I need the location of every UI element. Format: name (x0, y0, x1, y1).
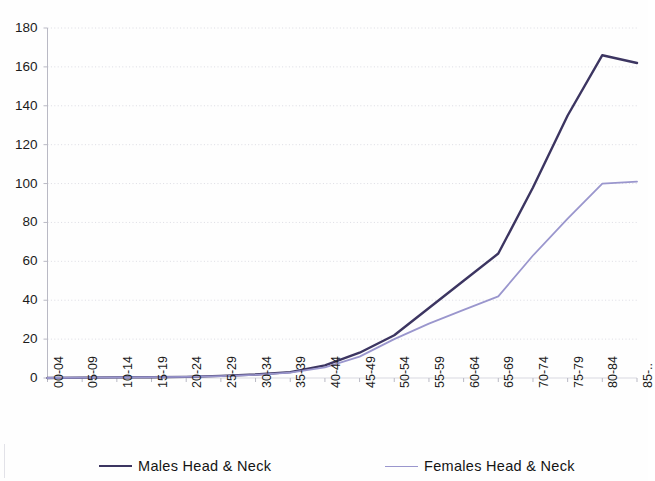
x-tick-label-1: 05-09 (87, 356, 100, 388)
x-tick-label-12: 60-64 (469, 356, 482, 388)
series-line-males (48, 55, 638, 378)
series-line-females (48, 182, 638, 378)
x-tick-label-6: 30-34 (261, 356, 274, 388)
x-tick-label-9: 45-49 (365, 356, 378, 388)
y-tick-label-120: 120 (0, 138, 38, 152)
x-tick-label-10: 50-54 (399, 356, 412, 388)
legend-swatch-females-icon (385, 466, 418, 467)
x-tick-label-5: 25-29 (226, 356, 239, 388)
y-tick-label-160: 160 (0, 60, 38, 74)
legend-label-males: Males Head & Neck (138, 458, 271, 474)
x-tick-label-14: 70-74 (538, 356, 551, 388)
x-tick-label-3: 15-19 (157, 356, 170, 388)
y-tick-label-0: 0 (0, 371, 38, 385)
y-tick-label-100: 100 (0, 177, 38, 191)
x-tick-label-4: 20-24 (191, 356, 204, 388)
y-tick-label-20: 20 (0, 332, 38, 346)
legend-label-females: Females Head & Neck (424, 458, 575, 474)
plot-area: 180160140120100806040200 00-0405-0910-14… (0, 0, 648, 445)
y-tick-label-60: 60 (0, 254, 38, 268)
y-tick-label-80: 80 (0, 215, 38, 229)
x-tick-label-13: 65-69 (503, 356, 516, 388)
y-tick-label-40: 40 (0, 293, 38, 307)
legend-item-males: Males Head & Neck (99, 458, 271, 474)
chart-legend: Males Head & Neck Females Head & Neck (0, 452, 648, 481)
x-tick-label-11: 55-59 (434, 356, 447, 388)
x-tick-label-2: 10-14 (122, 356, 135, 388)
x-tick-label-17: 85-.. (642, 363, 655, 388)
y-tick-label-140: 140 (0, 99, 38, 113)
x-tick-label-16: 80-84 (607, 356, 620, 388)
x-tick-label-8: 40-44 (330, 356, 343, 388)
x-tick-label-0: 00-04 (53, 356, 66, 388)
x-tick-label-7: 35-39 (295, 356, 308, 388)
legend-swatch-males-icon (99, 465, 132, 467)
legend-item-females: Females Head & Neck (385, 458, 575, 474)
x-tick-label-15: 75-79 (573, 356, 586, 388)
y-tick-label-180: 180 (0, 21, 38, 35)
